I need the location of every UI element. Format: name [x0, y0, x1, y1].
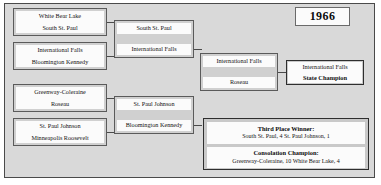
connector-q1-to-s1 [107, 22, 114, 23]
connector-q4-to-s2 [107, 132, 114, 133]
quarterfinal-match-4[interactable]: St. Paul Johnson Minneapolis Roosevelt [13, 118, 107, 146]
third-place-block: Third Place Winner: South St. Paul, 4 St… [207, 122, 365, 144]
connector-final-to-champion [278, 72, 286, 73]
connector-s1-to-final [194, 49, 202, 50]
connector-q2-to-s1 [107, 56, 114, 57]
semifinal-1-team-top: South St. Paul [117, 23, 191, 34]
third-place-score: South St. Paul, 4 St. Paul Johnson, 1 [209, 133, 363, 140]
results-panel: Third Place Winner: South St. Paul, 4 St… [203, 118, 369, 170]
connector-s2-to-final [194, 125, 202, 126]
state-champion-box[interactable]: International Falls State Champion [286, 60, 364, 85]
quarterfinal-match-2[interactable]: International Falls Bloomington Kennedy [13, 42, 107, 70]
quarterfinal-2-team-bottom: Bloomington Kennedy [16, 56, 104, 67]
consolation-score: Greenway-Coleraine, 10 White Bear Lake, … [209, 158, 363, 165]
semifinal-1-team-bottom: International Falls [117, 44, 191, 55]
consolation-heading: Consolation Champion: [209, 149, 363, 156]
semifinal-match-1[interactable]: South St. Paul International Falls [114, 20, 194, 58]
consolation-block: Consolation Champion: Greenway-Coleraine… [207, 147, 365, 169]
quarterfinal-1-team-bottom: South St. Paul [16, 22, 104, 33]
year-plate: 1966 [295, 7, 350, 26]
quarterfinal-match-3[interactable]: Greenway-Coleraine Roseau [13, 84, 107, 112]
quarterfinal-3-team-bottom: Roseau [16, 98, 104, 109]
quarterfinal-2-team-top: International Falls [16, 45, 104, 56]
connector-q3-to-s2 [107, 98, 114, 99]
semifinal-2-team-bottom: Bloomington Kennedy [117, 120, 191, 131]
final-team-bottom: Roseau [203, 77, 275, 88]
third-place-heading: Third Place Winner: [209, 125, 363, 132]
quarterfinal-4-team-bottom: Minneapolis Roosevelt [16, 132, 104, 143]
semifinal-match-2[interactable]: St. Paul Johnson Bloomington Kennedy [114, 96, 194, 134]
final-team-top: International Falls [203, 56, 275, 67]
semifinal-2-team-top: St. Paul Johnson [117, 99, 191, 110]
final-match[interactable]: International Falls Roseau [200, 53, 278, 91]
champion-title-label: State Champion [288, 72, 362, 83]
quarterfinal-4-team-top: St. Paul Johnson [16, 121, 104, 132]
quarterfinal-1-team-top: White Bear Lake [16, 11, 104, 22]
tournament-bracket: 1966 White Bear Lake South St. Paul Inte… [0, 0, 381, 185]
quarterfinal-match-1[interactable]: White Bear Lake South St. Paul [13, 8, 107, 36]
champion-team-name: International Falls [288, 62, 362, 72]
quarterfinal-3-team-top: Greenway-Coleraine [16, 87, 104, 98]
